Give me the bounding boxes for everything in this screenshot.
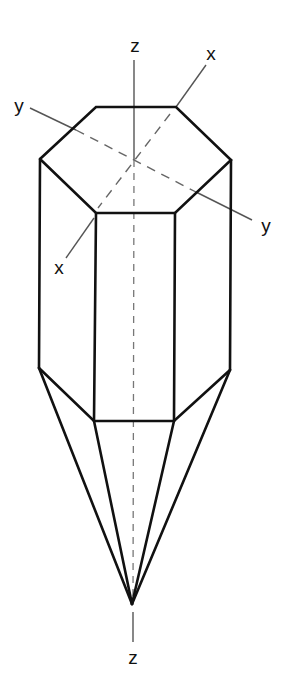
prism-bottom-edges: [39, 368, 230, 421]
prism-edge-left: [39, 159, 40, 368]
label-y-right: y: [261, 215, 271, 236]
y-axis-left-solid: [30, 108, 76, 130]
x-axis-upper-solid: [176, 65, 206, 107]
y-axis-hidden-dashed: [76, 130, 196, 192]
z-axis-internal-dashed: [133, 160, 134, 600]
label-z-bottom: z: [128, 647, 138, 668]
label-y-left: y: [14, 95, 24, 116]
prism-edge-right: [230, 160, 231, 370]
crystal-diagram: z x y y x z: [0, 0, 286, 690]
pyramid-edge-front-left: [94, 421, 132, 604]
x-axis-lower-solid: [66, 218, 94, 258]
pyramid-edge-left: [39, 368, 132, 604]
label-x-top: x: [206, 43, 216, 64]
label-x-bottom: x: [54, 257, 64, 278]
pyramid-edge-right: [132, 370, 230, 604]
prism-edge-front-right: [174, 213, 175, 421]
pyramid-edge-front-right: [132, 421, 174, 604]
prism-edge-front-left: [94, 213, 96, 421]
label-z-top: z: [130, 35, 140, 56]
y-axis-right-solid: [196, 192, 252, 220]
